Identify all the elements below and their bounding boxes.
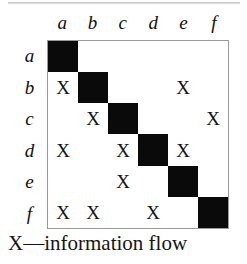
cell-e-d bbox=[138, 166, 168, 197]
page-rule-divider bbox=[8, 2, 240, 4]
cell-e-b bbox=[78, 166, 108, 197]
cell-d-f bbox=[198, 134, 228, 165]
row-header-c: c bbox=[14, 103, 45, 135]
column-header-b: b bbox=[77, 8, 107, 36]
cell-b-f bbox=[198, 72, 228, 103]
cell-mark: X bbox=[206, 109, 220, 128]
column-header-f: f bbox=[199, 8, 229, 36]
column-header-d: d bbox=[138, 8, 168, 36]
cell-b-c bbox=[108, 72, 138, 103]
row-header-a: a bbox=[14, 40, 45, 72]
cell-mark: X bbox=[56, 202, 70, 221]
cell-c-a bbox=[48, 103, 78, 134]
cell-a-b bbox=[78, 41, 108, 72]
row-header-b: b bbox=[14, 72, 45, 104]
cell-d-c: X bbox=[108, 134, 138, 165]
cell-e-c: X bbox=[108, 166, 138, 197]
cell-e-a bbox=[48, 166, 78, 197]
cell-mark: X bbox=[116, 140, 130, 159]
row-header-f: f bbox=[14, 198, 45, 230]
cell-mark: X bbox=[116, 171, 130, 190]
cell-a-e bbox=[168, 41, 198, 72]
cell-mark: X bbox=[56, 78, 70, 97]
cell-b-b bbox=[78, 72, 108, 103]
column-header-c: c bbox=[108, 8, 138, 36]
cell-mark: X bbox=[86, 202, 100, 221]
cell-d-b bbox=[78, 134, 108, 165]
cell-d-a: X bbox=[48, 134, 78, 165]
cell-mark: X bbox=[86, 109, 100, 128]
cell-mark: X bbox=[176, 140, 190, 159]
cell-a-c bbox=[108, 41, 138, 72]
cell-d-d bbox=[138, 134, 168, 165]
cell-f-e bbox=[168, 197, 198, 228]
cell-b-d bbox=[138, 72, 168, 103]
cell-f-a: X bbox=[48, 197, 78, 228]
cell-c-e bbox=[168, 103, 198, 134]
column-header-row: a b c d e f bbox=[47, 8, 229, 36]
matrix-grid: X X X X X X X X X X X bbox=[47, 40, 229, 229]
cell-f-d: X bbox=[138, 197, 168, 228]
cell-a-d bbox=[138, 41, 168, 72]
cell-f-f bbox=[198, 197, 228, 228]
cell-a-a bbox=[48, 41, 78, 72]
row-header-column: a b c d e f bbox=[14, 40, 45, 229]
cell-mark: X bbox=[146, 202, 160, 221]
cell-mark: X bbox=[176, 78, 190, 97]
cell-b-e: X bbox=[168, 72, 198, 103]
column-header-a: a bbox=[47, 8, 77, 36]
cell-c-d bbox=[138, 103, 168, 134]
cell-f-c bbox=[108, 197, 138, 228]
figure-caption: X—information flow bbox=[8, 232, 247, 255]
cell-b-a: X bbox=[48, 72, 78, 103]
cell-e-e bbox=[168, 166, 198, 197]
cell-c-b: X bbox=[78, 103, 108, 134]
cell-e-f bbox=[198, 166, 228, 197]
design-structure-matrix-figure: a b c d e f a b c d e f X X X X bbox=[0, 0, 247, 264]
row-header-d: d bbox=[14, 135, 45, 167]
cell-f-b: X bbox=[78, 197, 108, 228]
column-header-e: e bbox=[168, 8, 198, 36]
cell-mark: X bbox=[56, 140, 70, 159]
cell-d-e: X bbox=[168, 134, 198, 165]
cell-c-f: X bbox=[198, 103, 228, 134]
cell-c-c bbox=[108, 103, 138, 134]
row-header-e: e bbox=[14, 166, 45, 198]
cell-a-f bbox=[198, 41, 228, 72]
